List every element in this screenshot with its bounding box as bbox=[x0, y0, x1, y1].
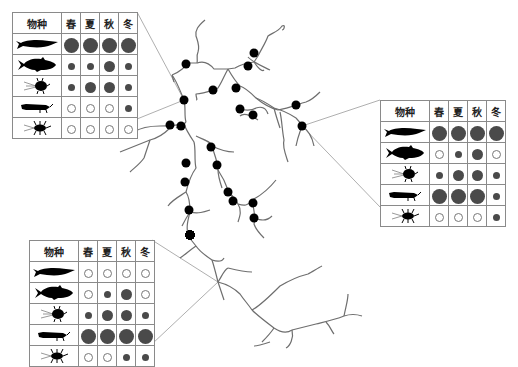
abundance-small-icon bbox=[87, 63, 94, 70]
abundance-cell-spring bbox=[79, 262, 98, 283]
abundance-small-icon bbox=[142, 312, 149, 319]
header-spring: 春 bbox=[430, 101, 449, 122]
species-cell bbox=[381, 122, 430, 143]
abundance-cell-winter bbox=[136, 283, 155, 304]
abundance-cell-winter bbox=[136, 325, 155, 346]
abundance-empty-icon bbox=[122, 269, 131, 278]
abundance-empty-icon bbox=[103, 353, 112, 362]
abundance-cell-winter bbox=[136, 262, 155, 283]
abundance-cell-spring bbox=[62, 76, 81, 97]
abundance-cell-summer bbox=[98, 325, 117, 346]
abundance-small-icon bbox=[85, 312, 92, 319]
abundance-cell-winter bbox=[136, 304, 155, 325]
abundance-cell-autumn bbox=[117, 304, 136, 325]
larva-insect-icon bbox=[30, 329, 78, 341]
river-lines bbox=[120, 20, 362, 348]
species-cell bbox=[30, 346, 79, 367]
abundance-cell-summer bbox=[449, 122, 468, 143]
pike-fish-icon bbox=[30, 265, 78, 279]
abundance-cell-summer bbox=[81, 97, 100, 118]
abundance-cell-autumn bbox=[468, 185, 487, 206]
abundance-empty-icon bbox=[67, 125, 76, 134]
abundance-empty-icon bbox=[435, 213, 444, 222]
abundance-cell-spring bbox=[62, 118, 81, 139]
species-cell bbox=[13, 34, 62, 55]
header-summer: 夏 bbox=[98, 241, 117, 262]
abundance-cell-autumn bbox=[100, 34, 119, 55]
header-winter: 冬 bbox=[136, 241, 155, 262]
abundance-medium-icon bbox=[104, 61, 115, 72]
header-row: 物种 春 夏 秋 冬 bbox=[13, 13, 138, 34]
header-species: 物种 bbox=[30, 241, 79, 262]
species-cell bbox=[30, 304, 79, 325]
abundance-cell-winter bbox=[119, 97, 138, 118]
abundance-cell-spring bbox=[62, 97, 81, 118]
abundance-cell-spring bbox=[79, 304, 98, 325]
abundance-cell-winter bbox=[487, 122, 506, 143]
abundance-cell-autumn bbox=[117, 283, 136, 304]
abundance-cell-autumn bbox=[117, 325, 136, 346]
pike-fish-icon bbox=[381, 125, 429, 139]
species-cell bbox=[381, 164, 430, 185]
abundance-cell-summer bbox=[81, 118, 100, 139]
abundance-cell-spring bbox=[430, 143, 449, 164]
species-cell bbox=[30, 283, 79, 304]
abundance-empty-icon bbox=[86, 125, 95, 134]
abundance-cell-winter bbox=[119, 55, 138, 76]
abundance-empty-icon bbox=[141, 290, 150, 299]
abundance-cell-autumn bbox=[100, 97, 119, 118]
abundance-cell-winter bbox=[119, 34, 138, 55]
header-summer: 夏 bbox=[81, 13, 100, 34]
abundance-cell-summer bbox=[98, 262, 117, 283]
abundance-small-icon bbox=[125, 84, 132, 91]
abundance-cell-summer bbox=[98, 283, 117, 304]
species-row-larva-insect bbox=[30, 325, 155, 346]
abundance-large-icon bbox=[119, 329, 134, 344]
pike-fish-icon bbox=[13, 37, 61, 51]
species-cell bbox=[381, 143, 430, 164]
abundance-empty-icon bbox=[84, 290, 93, 299]
header-spring: 春 bbox=[79, 241, 98, 262]
abundance-small-icon bbox=[455, 151, 462, 158]
abundance-medium-icon bbox=[104, 82, 115, 93]
abundance-empty-icon bbox=[473, 213, 482, 222]
abundance-cell-winter bbox=[487, 164, 506, 185]
species-row-bass-fish bbox=[30, 283, 155, 304]
abundance-empty-icon bbox=[435, 150, 444, 159]
abundance-cell-spring bbox=[62, 55, 81, 76]
header-row: 物种 春 夏 秋 冬 bbox=[381, 101, 506, 122]
abundance-cell-autumn bbox=[117, 262, 136, 283]
abundance-cell-autumn bbox=[100, 76, 119, 97]
abundance-large-icon bbox=[470, 189, 485, 204]
abundance-small-icon bbox=[493, 172, 500, 179]
species-row-stonefly-insect bbox=[381, 206, 506, 227]
abundance-cell-spring bbox=[430, 185, 449, 206]
stonefly-insect-icon bbox=[381, 208, 429, 224]
abundance-small-icon bbox=[125, 63, 132, 70]
sampling-sites bbox=[166, 49, 307, 240]
abundance-cell-summer bbox=[449, 164, 468, 185]
header-winter: 冬 bbox=[119, 13, 138, 34]
abundance-small-icon bbox=[493, 214, 500, 221]
species-row-bass-fish bbox=[13, 55, 138, 76]
abundance-cell-winter bbox=[119, 76, 138, 97]
abundance-cell-autumn bbox=[100, 118, 119, 139]
species-row-nymph-insect bbox=[13, 76, 138, 97]
abundance-large-icon bbox=[100, 329, 115, 344]
header-winter: 冬 bbox=[487, 101, 506, 122]
nymph-insect-icon bbox=[30, 306, 78, 322]
abundance-cell-spring bbox=[430, 164, 449, 185]
abundance-small-icon bbox=[493, 193, 500, 200]
header-autumn: 秋 bbox=[468, 101, 487, 122]
abundance-empty-icon bbox=[67, 104, 76, 113]
abundance-medium-icon bbox=[472, 170, 483, 181]
abundance-cell-autumn bbox=[100, 55, 119, 76]
abundance-empty-icon bbox=[84, 269, 93, 278]
abundance-cell-spring bbox=[62, 34, 81, 55]
abundance-cell-summer bbox=[449, 143, 468, 164]
abundance-large-icon bbox=[138, 329, 153, 344]
abundance-empty-icon bbox=[141, 269, 150, 278]
abundance-cell-summer bbox=[98, 304, 117, 325]
abundance-cell-winter bbox=[119, 118, 138, 139]
abundance-small-icon bbox=[142, 354, 149, 361]
